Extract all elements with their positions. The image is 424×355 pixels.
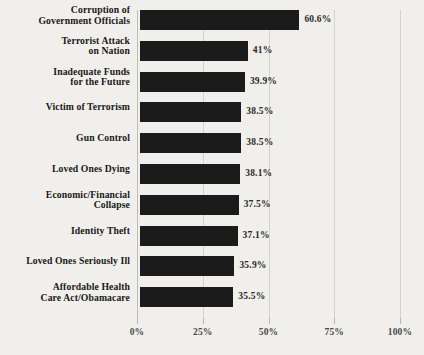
- bar-row: Identity Theft37.1%: [0, 226, 424, 246]
- bar: [140, 195, 239, 215]
- bar-row: Loved Ones Seriously Ill35.9%: [0, 256, 424, 276]
- bar: [140, 10, 299, 30]
- bar: [140, 226, 238, 246]
- bar-value-label: 38.5%: [246, 137, 273, 147]
- category-label: Loved Ones Seriously Ill: [0, 256, 130, 267]
- tick-mark-25pct: [203, 318, 204, 324]
- bar-value-label: 41%: [253, 45, 273, 55]
- category-label: Terrorist Attack on Nation: [0, 36, 130, 57]
- horizontal-bar-chart: 0%25%50%75%100% Corruption of Government…: [0, 0, 424, 355]
- tick-mark-75pct: [334, 318, 335, 324]
- x-axis-tick-label: 75%: [324, 327, 344, 337]
- bar-row: Inadequate Funds for the Future39.9%: [0, 72, 424, 92]
- tick-mark-50pct: [269, 318, 270, 324]
- bar-value-label: 38.1%: [245, 168, 272, 178]
- bar-row: Terrorist Attack on Nation41%: [0, 41, 424, 61]
- bar-row: Economic/Financial Collapse37.5%: [0, 195, 424, 215]
- bar: [140, 41, 248, 61]
- bar-value-label: 37.5%: [244, 199, 271, 209]
- tick-mark-100pct: [400, 318, 401, 324]
- x-axis-tick-label: 0%: [130, 327, 145, 337]
- x-axis-tick-label: 25%: [193, 327, 213, 337]
- bar-row: Victim of Terrorism38.5%: [0, 102, 424, 122]
- bar-value-label: 38.5%: [246, 106, 273, 116]
- bar: [140, 133, 241, 153]
- x-axis-tick-label: 50%: [259, 327, 279, 337]
- bar-value-label: 39.9%: [250, 76, 277, 86]
- bar-value-label: 35.5%: [238, 291, 265, 301]
- category-label: Victim of Terrorism: [0, 102, 130, 113]
- bar: [140, 102, 241, 122]
- bar: [140, 72, 245, 92]
- category-label: Economic/Financial Collapse: [0, 190, 130, 211]
- bar: [140, 164, 240, 184]
- bar-value-label: 35.9%: [239, 260, 266, 270]
- bar: [140, 256, 234, 276]
- x-axis-tick-label: 100%: [388, 327, 413, 337]
- bar-value-label: 37.1%: [243, 230, 270, 240]
- bar-value-label: 60.6%: [304, 14, 331, 24]
- bar: [140, 287, 233, 307]
- bar-row: Affordable Health Care Act/Obamacare35.5…: [0, 287, 424, 307]
- category-label: Loved Ones Dying: [0, 164, 130, 175]
- category-label: Affordable Health Care Act/Obamacare: [0, 282, 130, 303]
- bar-row: Corruption of Government Officials60.6%: [0, 10, 424, 30]
- tick-mark-0pct: [137, 318, 138, 324]
- bar-row: Loved Ones Dying38.1%: [0, 164, 424, 184]
- bar-row: Gun Control38.5%: [0, 133, 424, 153]
- category-label: Corruption of Government Officials: [0, 5, 130, 26]
- category-label: Identity Theft: [0, 226, 130, 237]
- category-label: Gun Control: [0, 133, 130, 144]
- category-label: Inadequate Funds for the Future: [0, 67, 130, 88]
